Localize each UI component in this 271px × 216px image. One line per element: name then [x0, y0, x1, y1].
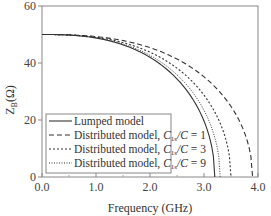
x-tick-label: 3.0 [197, 180, 212, 194]
x-tick-label: 0.0 [35, 180, 50, 194]
y-axis-title: ZB(Ω) [3, 85, 19, 115]
x-tick-label: 2.0 [143, 180, 158, 194]
x-axis-ticks: 0.01.02.03.04.0 [35, 173, 266, 194]
y-tick-label: 20 [24, 113, 36, 127]
y-axis-ticks: 0204060 [24, 0, 42, 184]
x-tick-label: 4.0 [251, 180, 266, 194]
legend-label: Distributed model, C1s/C = 3 [74, 143, 206, 157]
y-tick-label: 60 [24, 0, 36, 13]
legend-label: Distributed model, C1s/C = 1 [74, 129, 206, 143]
chart-root: 0204060 0.01.02.03.04.0 ZB(Ω) Frequency … [0, 0, 271, 216]
y-tick-label: 40 [24, 56, 36, 70]
svg-text:ZB(Ω): ZB(Ω) [3, 85, 19, 115]
x-tick-label: 1.0 [89, 180, 104, 194]
legend-label: Lumped model [74, 115, 144, 128]
legend-label: Distributed model, C1s/C = 9 [74, 157, 206, 171]
legend: Lumped modelDistributed model, C1s/C = 1… [46, 114, 206, 173]
x-axis-title: Frequency (GHz) [108, 201, 192, 215]
